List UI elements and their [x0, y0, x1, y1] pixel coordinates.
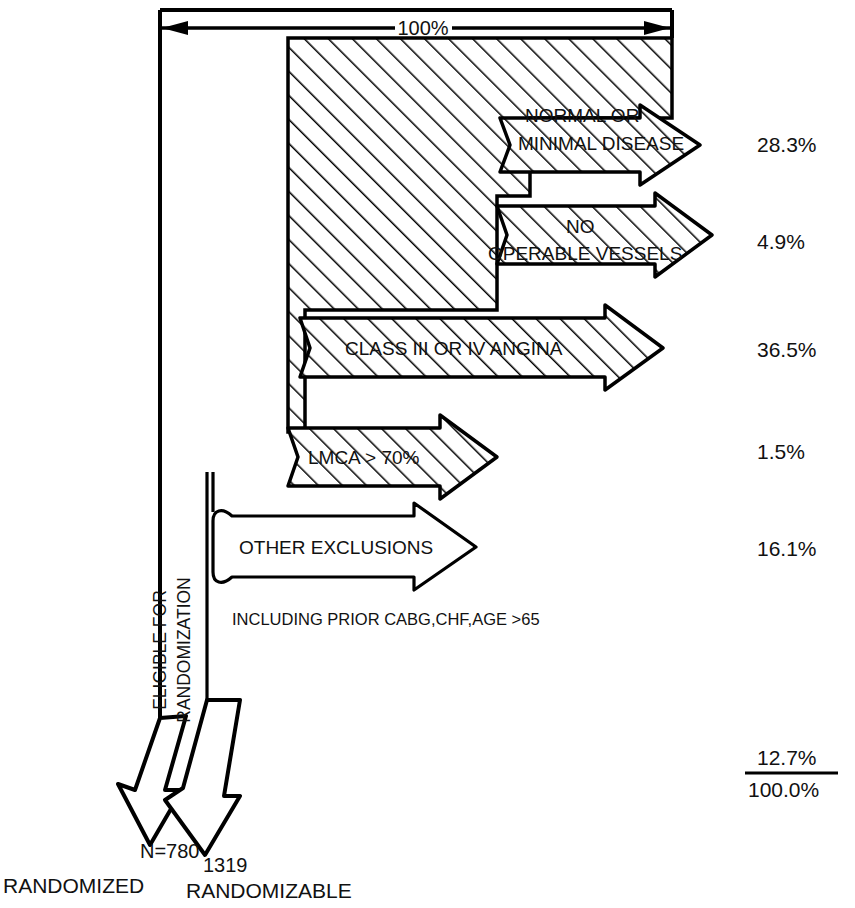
- totals-column: 12.7% 100.0%: [745, 746, 838, 801]
- outcome-2-label: RANDOMIZABLE: [186, 879, 352, 902]
- branch-2-percent: 4.9%: [757, 230, 805, 253]
- branch-no-operable-vessels: NO OPERABLE VESSELS 4.9%: [488, 193, 805, 277]
- branch-1-label-line2: MINIMAL DISEASE: [518, 133, 684, 154]
- total-remainder: 12.7%: [757, 746, 817, 769]
- branch-2-label-line1: NO: [566, 216, 595, 237]
- branch-5-percent: 16.1%: [757, 537, 817, 560]
- branch-4-label: LMCA > 70%: [308, 447, 420, 468]
- outcome-arrow-randomized: [118, 716, 186, 845]
- branch-3-label: CLASS III OR IV ANGINA: [345, 338, 563, 359]
- outcome-randomizable: 1319 RANDOMIZABLE: [186, 854, 352, 902]
- outcome-1-number: N=780: [140, 840, 200, 862]
- branch-4-percent: 1.5%: [757, 440, 805, 463]
- branch-lmca-gt-70: LMCA > 70% 1.5%: [288, 415, 805, 499]
- total-sum: 100.0%: [748, 778, 819, 801]
- branch-3-percent: 36.5%: [757, 338, 817, 361]
- branch-other-exclusions: OTHER EXCLUSIONS 16.1%: [213, 503, 817, 590]
- eligible-for-randomization-label: ELIGIBLE FOR RANDOMIZATION: [150, 577, 194, 723]
- outcome-1-label: RANDOMIZED: [3, 874, 144, 897]
- outcome-2-number: 1319: [203, 854, 248, 876]
- branch-1-percent: 28.3%: [757, 133, 817, 156]
- branch-normal-or-minimal-disease: NORMAL OR MINIMAL DISEASE 28.3%: [500, 105, 817, 185]
- vertical-label-line2: RANDOMIZATION: [174, 577, 194, 723]
- branch-class-iii-or-iv-angina: CLASS III OR IV ANGINA 36.5%: [300, 305, 817, 390]
- dimension-label: 100%: [397, 17, 448, 39]
- branch-1-label-line1: NORMAL OR: [525, 105, 639, 126]
- outcome-randomized: N=780 RANDOMIZED: [3, 840, 200, 897]
- vertical-label-line1: ELIGIBLE FOR: [150, 590, 170, 710]
- exclusion-flow-diagram: 100% NORMAL OR MINIMAL DISEASE 28.3% NO …: [0, 0, 855, 908]
- branch-2-label-line2: OPERABLE VESSELS: [488, 243, 682, 264]
- branch-5-label: OTHER EXCLUSIONS: [239, 537, 433, 558]
- exclusions-note: INCLUDING PRIOR CABG,CHF,AGE >65: [232, 610, 540, 628]
